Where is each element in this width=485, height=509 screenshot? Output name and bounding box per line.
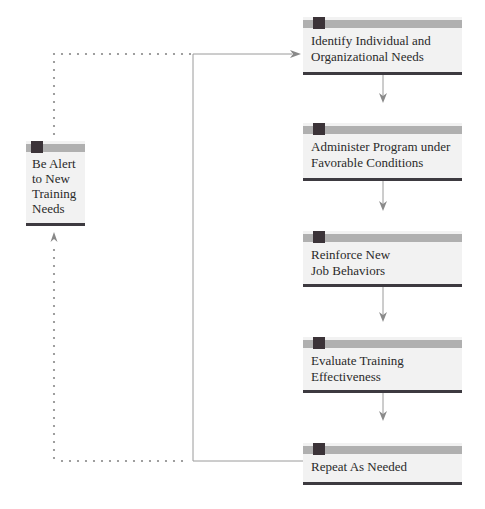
- bottom-rule: [303, 482, 462, 485]
- step-administer: Administer Program under Favorable Condi…: [303, 123, 462, 181]
- square-marker-icon: [313, 443, 325, 455]
- dotted-connectors: [51, 53, 192, 462]
- header-band: [303, 340, 462, 348]
- square-marker-icon: [313, 17, 325, 29]
- step-alert: Be Alert to New Training Needs: [26, 141, 85, 226]
- bottom-rule: [303, 390, 462, 393]
- step-identify: Identify Individual and Organizational N…: [303, 17, 462, 75]
- lower-left-dotted-line: [53, 249, 55, 459]
- step-reinforce: Reinforce New Job Behaviors: [303, 231, 462, 287]
- square-marker-icon: [313, 123, 325, 135]
- upper-left-dotted-line: [53, 61, 55, 135]
- step-label: Administer Program under Favorable Condi…: [311, 139, 450, 171]
- header-band: [303, 234, 462, 242]
- step-label: Be Alert to New Training Needs: [32, 156, 76, 216]
- bottom-rule: [303, 72, 462, 75]
- square-marker-icon: [313, 231, 325, 243]
- header-band: [303, 446, 462, 454]
- step-repeat: Repeat As Needed: [303, 443, 462, 485]
- step-label: Identify Individual and Organizational N…: [311, 33, 431, 65]
- feedback-loop-line: [193, 54, 303, 461]
- header-band: [303, 20, 462, 28]
- bottom-rule: [26, 223, 85, 226]
- step-label: Evaluate Training Effectiveness: [311, 353, 404, 385]
- bottom-rule: [303, 178, 462, 181]
- step-evaluate: Evaluate Training Effectiveness: [303, 337, 462, 393]
- bottom-dotted-line: [61, 460, 183, 462]
- step-label: Repeat As Needed: [311, 459, 407, 475]
- bottom-rule: [303, 284, 462, 287]
- header-band: [303, 126, 462, 134]
- arrow-up-icon: [51, 232, 58, 242]
- top-dotted-line: [53, 53, 191, 55]
- step-label: Reinforce New Job Behaviors: [311, 247, 390, 279]
- square-marker-icon: [313, 337, 325, 349]
- square-marker-icon: [31, 141, 43, 153]
